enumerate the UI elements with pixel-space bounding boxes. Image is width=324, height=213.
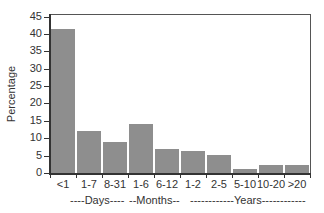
y-tick-label: 40 xyxy=(12,28,42,39)
bar-6-12 xyxy=(155,149,179,173)
y-tick-mark xyxy=(44,121,49,122)
bar-<1 xyxy=(51,29,75,173)
y-tick-mark xyxy=(44,173,49,174)
y-tick-label: 10 xyxy=(12,132,42,143)
y-tick-mark xyxy=(44,86,49,87)
y-tick-mark xyxy=(44,69,49,70)
bar-10-20 xyxy=(259,165,283,173)
x-tick-mark xyxy=(310,174,311,178)
y-tick-label: 35 xyxy=(12,45,42,56)
y-tick-mark xyxy=(44,103,49,104)
y-tick-mark xyxy=(44,17,49,18)
group-label-months: --Months-- xyxy=(129,194,180,206)
bar-1-7 xyxy=(77,131,101,173)
group-label-years: ------------Years------------ xyxy=(190,194,306,206)
y-tick-mark xyxy=(44,156,49,157)
bar-1-6 xyxy=(129,124,153,173)
y-tick-mark xyxy=(44,34,49,35)
y-tick-label: 45 xyxy=(12,11,42,22)
y-tick-mark xyxy=(44,51,49,52)
y-tick-label: 30 xyxy=(12,63,42,74)
x-tick-label: >20 xyxy=(282,178,312,190)
bar-5-10 xyxy=(233,169,257,173)
y-tick-mark xyxy=(44,138,49,139)
bar->20 xyxy=(285,165,309,173)
bar-8-31 xyxy=(103,142,127,173)
y-tick-label: 25 xyxy=(12,80,42,91)
bar-2-5 xyxy=(207,155,231,173)
y-tick-label: 5 xyxy=(12,150,42,161)
group-label-days: ----Days---- xyxy=(70,194,124,206)
y-tick-label: 20 xyxy=(12,97,42,108)
y-tick-label: 0 xyxy=(12,167,42,178)
y-tick-label: 15 xyxy=(12,115,42,126)
bar-1-2 xyxy=(181,151,205,173)
